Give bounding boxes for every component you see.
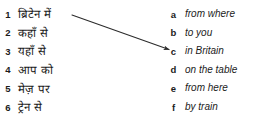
item-number-5: 5 bbox=[0, 84, 16, 94]
list-item[interactable]: e from here bbox=[165, 79, 261, 98]
list-item[interactable]: 2 कहाँ से bbox=[0, 24, 165, 43]
matching-exercise: 1 ब्रिटेन में 2 कहाँ से 3 यहाँ से 4 आप क… bbox=[0, 0, 261, 121]
english-translation-f: by train bbox=[182, 102, 218, 113]
list-item[interactable]: 6 ट्रेन से bbox=[0, 98, 165, 117]
item-number-1: 1 bbox=[0, 10, 16, 20]
item-number-2: 2 bbox=[0, 28, 16, 38]
hindi-phrase-3: यहाँ से bbox=[16, 45, 46, 57]
item-number-3: 3 bbox=[0, 47, 16, 57]
list-item[interactable]: 5 मेज़ पर bbox=[0, 79, 165, 98]
list-item[interactable]: 3 यहाँ से bbox=[0, 42, 165, 61]
item-number-4: 4 bbox=[0, 65, 16, 75]
english-translation-c: in Britain bbox=[182, 46, 224, 57]
list-item[interactable]: f by train bbox=[165, 98, 261, 117]
option-letter-d: d bbox=[165, 65, 182, 75]
option-letter-a: a bbox=[165, 10, 182, 20]
hindi-phrase-column: 1 ब्रिटेन में 2 कहाँ से 3 यहाँ से 4 आप क… bbox=[0, 0, 165, 117]
hindi-phrase-1: ब्रिटेन में bbox=[16, 8, 51, 20]
option-letter-c: c bbox=[165, 47, 182, 57]
list-item[interactable]: 1 ब्रिटेन में bbox=[0, 5, 165, 24]
list-item[interactable]: c in Britain bbox=[165, 42, 261, 61]
hindi-phrase-4: आप को bbox=[16, 64, 53, 76]
option-letter-e: e bbox=[165, 84, 182, 94]
list-item[interactable]: 4 आप को bbox=[0, 61, 165, 80]
list-item[interactable]: a from where bbox=[165, 5, 261, 24]
option-letter-b: b bbox=[165, 28, 182, 38]
english-translation-column: a from where b to you c in Britain d on … bbox=[165, 0, 261, 117]
hindi-phrase-2: कहाँ से bbox=[16, 27, 48, 39]
hindi-phrase-6: ट्रेन से bbox=[16, 101, 42, 113]
english-translation-a: from where bbox=[182, 9, 235, 20]
item-number-6: 6 bbox=[0, 103, 16, 113]
english-translation-b: to you bbox=[182, 28, 212, 39]
list-item[interactable]: b to you bbox=[165, 24, 261, 43]
english-translation-d: on the table bbox=[182, 65, 237, 76]
option-letter-f: f bbox=[165, 103, 182, 113]
english-translation-e: from here bbox=[182, 83, 228, 94]
list-item[interactable]: d on the table bbox=[165, 61, 261, 80]
hindi-phrase-5: मेज़ पर bbox=[16, 83, 50, 95]
